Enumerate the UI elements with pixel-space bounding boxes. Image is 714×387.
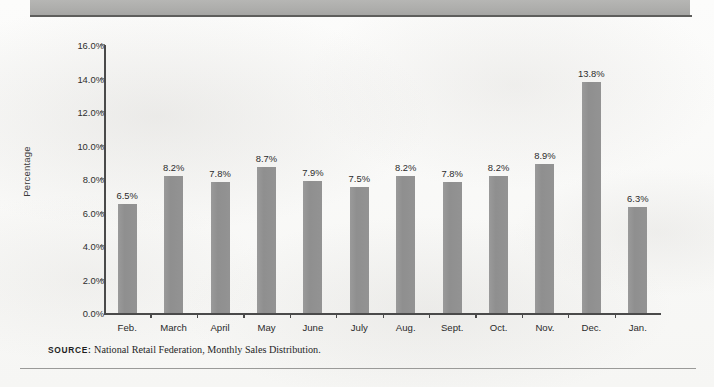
x-category-label: Aug. xyxy=(396,322,416,333)
bar xyxy=(443,182,462,313)
bar-value-label: 8.7% xyxy=(256,153,277,164)
bar-value-label: 7.9% xyxy=(302,167,323,178)
bar-value-label: 13.8% xyxy=(578,68,605,79)
x-tick-mark xyxy=(197,313,198,318)
source-text: National Retail Federation, Monthly Sale… xyxy=(94,344,321,355)
bar xyxy=(582,82,601,313)
x-category-label: Jan. xyxy=(629,322,647,333)
bar-value-label: 7.8% xyxy=(209,168,230,179)
y-tick-mark xyxy=(100,178,105,179)
bar xyxy=(396,176,415,313)
y-tick-mark xyxy=(100,245,105,246)
x-category-label: Nov. xyxy=(535,322,554,333)
x-tick-mark xyxy=(150,313,151,318)
x-category-label: April xyxy=(210,322,229,333)
y-tick-label: 16.0% xyxy=(58,40,104,51)
bar xyxy=(489,176,508,313)
bar xyxy=(535,164,554,313)
bar-value-label: 8.9% xyxy=(534,150,555,161)
x-category-label: Sept. xyxy=(441,322,463,333)
bar-value-label: 6.3% xyxy=(627,193,648,204)
y-tick-label: 10.0% xyxy=(58,140,104,151)
y-tick-label: 12.0% xyxy=(58,107,104,118)
header-band xyxy=(30,0,690,15)
x-tick-mark xyxy=(290,313,291,318)
bar xyxy=(303,181,322,313)
bar xyxy=(350,187,369,313)
x-tick-mark xyxy=(615,313,616,318)
y-tick-label: 14.0% xyxy=(58,73,104,84)
y-tick-mark xyxy=(100,212,105,213)
x-category-label: June xyxy=(302,322,323,333)
y-tick-mark xyxy=(100,44,105,45)
footer-rule xyxy=(20,368,696,369)
x-category-label: May xyxy=(257,322,275,333)
y-tick-mark xyxy=(100,145,105,146)
x-category-label: July xyxy=(351,322,368,333)
y-tick-label: 6.0% xyxy=(58,207,104,218)
y-axis-title: Percentage xyxy=(21,122,32,222)
x-category-label: Oct. xyxy=(490,322,508,333)
y-tick-mark xyxy=(100,78,105,79)
x-tick-mark xyxy=(429,313,430,318)
header-rule xyxy=(30,15,692,17)
bar-value-label: 8.2% xyxy=(488,162,509,173)
y-tick-label: 0.0% xyxy=(58,308,104,319)
x-tick-mark xyxy=(383,313,384,318)
bar xyxy=(164,176,183,313)
x-tick-mark xyxy=(475,313,476,318)
x-category-label: Dec. xyxy=(582,322,602,333)
source-key: SOURCE: xyxy=(48,345,92,355)
bar-value-label: 7.5% xyxy=(349,173,370,184)
y-tick-mark xyxy=(100,279,105,280)
bar-value-label: 8.2% xyxy=(395,162,416,173)
x-category-label: March xyxy=(160,322,187,333)
x-tick-mark xyxy=(568,313,569,318)
bar xyxy=(211,182,230,313)
y-tick-mark xyxy=(100,111,105,112)
y-tick-label: 8.0% xyxy=(58,174,104,185)
y-tick-label: 4.0% xyxy=(58,241,104,252)
bar-chart: Percentage 0.0%2.0%4.0%6.0%8.0%10.0%12.0… xyxy=(0,26,714,336)
y-tick-label: 2.0% xyxy=(58,274,104,285)
bar xyxy=(628,207,647,313)
bar-value-label: 6.5% xyxy=(117,190,138,201)
bar xyxy=(257,167,276,313)
bar-value-label: 7.8% xyxy=(441,168,462,179)
bar-value-label: 8.2% xyxy=(163,162,184,173)
x-category-label: Feb. xyxy=(118,322,137,333)
x-tick-mark xyxy=(243,313,244,318)
x-tick-mark xyxy=(522,313,523,318)
x-tick-mark xyxy=(336,313,337,318)
source-note: SOURCE: National Retail Federation, Mont… xyxy=(48,344,321,355)
bar xyxy=(118,204,137,313)
